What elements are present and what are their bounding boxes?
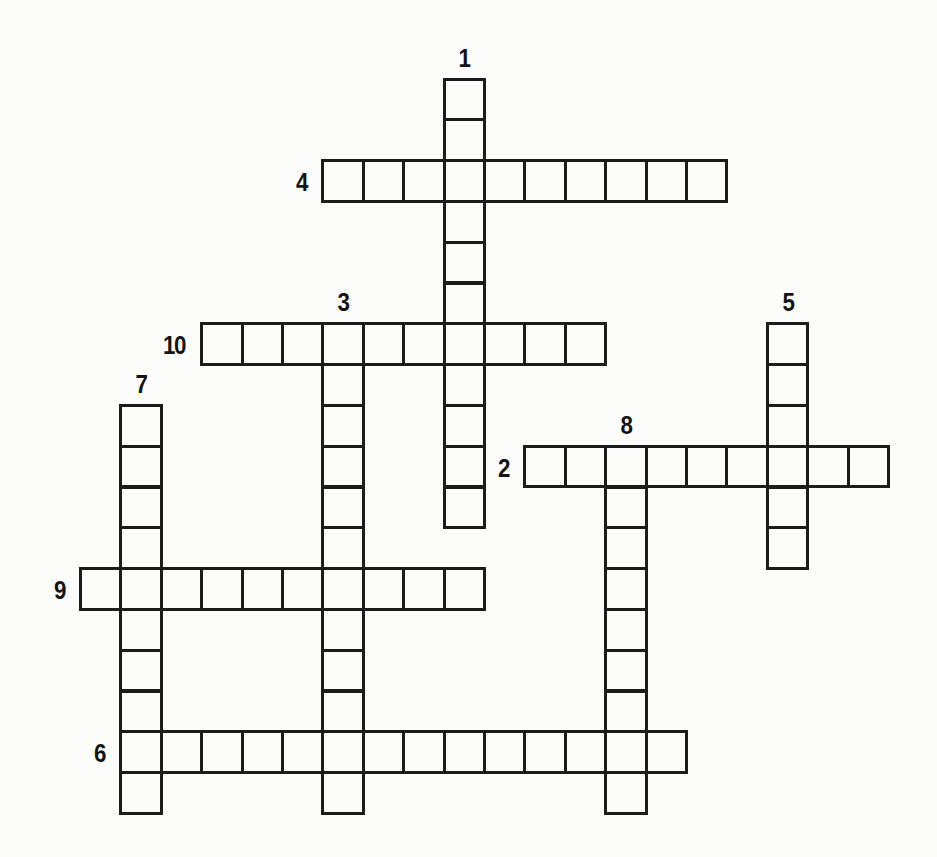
cell-4-3[interactable]	[402, 159, 445, 203]
cell-1-2[interactable]	[443, 118, 486, 162]
clue-number-4: 4	[295, 169, 308, 195]
cell-8-7[interactable]	[604, 690, 647, 734]
cell-6-12[interactable]	[564, 730, 607, 774]
cell-9-2[interactable]	[119, 567, 162, 611]
cell-10-9[interactable]	[523, 322, 566, 366]
clue-number-text: 8	[620, 412, 631, 438]
cell-10-10[interactable]	[564, 322, 607, 366]
cell-6-8[interactable]	[402, 730, 445, 774]
cell-8-3[interactable]	[604, 526, 647, 570]
cell-1-1[interactable]	[443, 78, 486, 122]
cell-4-7[interactable]	[564, 159, 607, 203]
cell-2-4[interactable]	[645, 445, 688, 489]
cell-6-4[interactable]	[241, 730, 284, 774]
cell-5-3[interactable]	[766, 404, 809, 448]
cell-7-7[interactable]	[119, 649, 162, 693]
cell-4-10[interactable]	[685, 159, 728, 203]
clue-number-text: 3	[338, 289, 349, 315]
cell-2-9[interactable]	[847, 445, 890, 489]
cell-7-2[interactable]	[119, 445, 162, 489]
cell-4-9[interactable]	[645, 159, 688, 203]
cell-9-5[interactable]	[241, 567, 284, 611]
cell-3-3[interactable]	[321, 404, 364, 448]
cell-6-10[interactable]	[483, 730, 526, 774]
cell-7-1[interactable]	[119, 404, 162, 448]
cell-7-10[interactable]	[119, 771, 162, 815]
cell-7-6[interactable]	[119, 608, 162, 652]
cell-9-8[interactable]	[362, 567, 405, 611]
cell-3-8[interactable]	[321, 608, 364, 652]
cell-2-6[interactable]	[725, 445, 768, 489]
cell-8-5[interactable]	[604, 608, 647, 652]
cell-3-10[interactable]	[321, 690, 364, 734]
cell-6-6[interactable]	[321, 730, 364, 774]
clue-number-text: 1	[459, 45, 470, 71]
cell-10-1[interactable]	[200, 322, 243, 366]
cell-6-2[interactable]	[160, 730, 203, 774]
cell-3-9[interactable]	[321, 649, 364, 693]
clue-number-text: 6	[94, 740, 105, 766]
cell-10-5[interactable]	[362, 322, 405, 366]
cell-9-7[interactable]	[321, 567, 364, 611]
cell-10-2[interactable]	[241, 322, 284, 366]
cell-1-4[interactable]	[443, 200, 486, 244]
cell-4-6[interactable]	[523, 159, 566, 203]
cell-9-4[interactable]	[200, 567, 243, 611]
cell-1-8[interactable]	[443, 363, 486, 407]
cell-10-8[interactable]	[483, 322, 526, 366]
cell-1-10[interactable]	[443, 445, 486, 489]
cell-2-1[interactable]	[523, 445, 566, 489]
cell-8-8[interactable]	[604, 730, 647, 774]
cell-2-5[interactable]	[685, 445, 728, 489]
cell-5-2[interactable]	[766, 363, 809, 407]
cell-4-5[interactable]	[483, 159, 526, 203]
cell-1-5[interactable]	[443, 241, 486, 285]
cell-3-2[interactable]	[321, 363, 364, 407]
cell-8-9[interactable]	[604, 771, 647, 815]
cell-2-2[interactable]	[564, 445, 607, 489]
cell-6-5[interactable]	[281, 730, 324, 774]
cell-9-6[interactable]	[281, 567, 324, 611]
cell-4-4[interactable]	[443, 159, 486, 203]
cell-1-11[interactable]	[443, 486, 486, 530]
cell-8-4[interactable]	[604, 567, 647, 611]
cell-6-7[interactable]	[362, 730, 405, 774]
cell-9-10[interactable]	[443, 567, 486, 611]
cell-5-1[interactable]	[766, 322, 809, 366]
cell-9-9[interactable]	[402, 567, 445, 611]
cell-7-3[interactable]	[119, 486, 162, 530]
cell-9-1[interactable]	[79, 567, 122, 611]
cell-4-2[interactable]	[362, 159, 405, 203]
cell-9-3[interactable]	[160, 567, 203, 611]
cell-10-4[interactable]	[321, 322, 364, 366]
cell-10-7[interactable]	[443, 322, 486, 366]
cell-8-1[interactable]	[604, 445, 647, 489]
cell-6-11[interactable]	[523, 730, 566, 774]
cell-5-5[interactable]	[766, 486, 809, 530]
cell-5-4[interactable]	[766, 445, 809, 489]
cell-1-6[interactable]	[443, 282, 486, 326]
clue-number-text: 4	[296, 169, 307, 195]
clue-number-text: 10	[163, 332, 185, 358]
cell-10-3[interactable]	[281, 322, 324, 366]
clue-number-7: 7	[135, 371, 148, 397]
cell-7-9[interactable]	[119, 730, 162, 774]
cell-4-8[interactable]	[604, 159, 647, 203]
cell-6-14[interactable]	[645, 730, 688, 774]
cell-1-9[interactable]	[443, 404, 486, 448]
clue-number-3: 3	[337, 289, 350, 315]
cell-8-2[interactable]	[604, 486, 647, 530]
cell-6-3[interactable]	[200, 730, 243, 774]
cell-3-5[interactable]	[321, 486, 364, 530]
cell-3-12[interactable]	[321, 771, 364, 815]
cell-6-9[interactable]	[443, 730, 486, 774]
cell-4-1[interactable]	[321, 159, 364, 203]
cell-8-6[interactable]	[604, 649, 647, 693]
cell-5-6[interactable]	[766, 526, 809, 570]
cell-3-4[interactable]	[321, 445, 364, 489]
cell-7-4[interactable]	[119, 526, 162, 570]
cell-7-8[interactable]	[119, 690, 162, 734]
cell-10-6[interactable]	[402, 322, 445, 366]
cell-3-6[interactable]	[321, 526, 364, 570]
cell-2-8[interactable]	[806, 445, 849, 489]
